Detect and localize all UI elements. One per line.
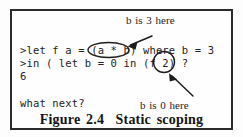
figure-container: >let f a = (a * b) where b = 3 >in ( let… [0, 0, 243, 137]
code-line-result: 6 [20, 70, 26, 82]
code-line-prompt-what-next: what next? [20, 97, 85, 109]
annotation-b-is-0-here: b is 0 here [140, 99, 189, 112]
code-line-in-let-b: >in ( let b = 0 in (f 2) ? [20, 57, 188, 69]
annotation-b-is-3-here: b is 3 here [126, 14, 175, 27]
code-line-let-f: >let f a = (a * b) where b = 3 [20, 44, 214, 56]
figure-caption: Figure 2.4 Static scoping [10, 112, 233, 128]
